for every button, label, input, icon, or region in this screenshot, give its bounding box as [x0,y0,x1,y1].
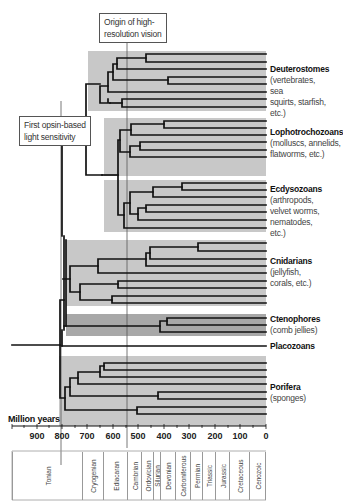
clade-desc: velvet worms, [270,206,330,217]
clade-label-deuterostomes: Deuterostomes (vertebrates, sea squirts,… [270,64,330,119]
clade-desc: (molluscs, annelids, [270,138,343,149]
period-label: Devonian [165,462,172,489]
period-ediacaran: Ediacaran [103,452,127,500]
lophotrochozoans-box [104,118,266,176]
tick-900: 900 [29,431,44,441]
period-cenozoic: Cenozoic [249,452,266,500]
clade-name: Lophotrochozoans [270,127,343,138]
tick-700: 700 [79,431,94,441]
callout-opsin: First opsin-based light sensitivity [19,116,91,146]
period-label: Cambrian [131,462,138,490]
tick-300: 300 [181,431,196,441]
clade-desc: (jellyfish, [270,267,312,278]
clade-label-lophotrochozoans: Lophotrochozoans (molluscs, annelids, fl… [270,127,343,160]
period-label: Permian [193,464,200,488]
period-triassic: Triassic [202,452,215,500]
clade-desc: (sponges) [270,393,306,404]
tick-200: 200 [207,431,222,441]
clade-name: Ecdysozoans [270,184,330,195]
tick-0: 0 [263,431,268,441]
clade-desc: (vertebrates, sea [270,75,330,97]
clade-desc: nematodes, etc.) [270,217,330,239]
tick-500: 500 [130,431,145,441]
period-label: Cenozoic [254,462,261,489]
clade-name: Cnidarians [270,256,312,267]
period-label: Cryogenian [90,459,97,492]
clade-desc: corals, etc.) [270,278,312,289]
clade-desc: etc.) [270,108,330,119]
porifera-box [59,356,266,426]
clade-desc: squirts, starfish, [270,97,330,108]
period-cryogenian: Cryogenian [82,452,103,500]
axis-title: Million years [8,414,60,424]
callout-high-res-vision-line2: resolution vision [104,28,162,40]
callout-high-res-vision: Origin of high- resolution vision [99,13,167,43]
period-silurian: Silurian [153,452,160,500]
callout-opsin-line1: First opsin-based [24,119,86,131]
clade-name: Deuterostomes [270,64,330,75]
deuterostomes-box [88,51,266,111]
period-label: Ediacaran [112,461,119,490]
clade-desc: flatworms, etc.) [270,149,343,160]
period-label: Tonian [44,466,51,485]
period-label: Carboniferous [180,456,187,497]
period-devonian: Devonian [160,452,175,500]
period-label: Ordovician [144,460,151,491]
tick-400: 400 [156,431,171,441]
clade-label-porifera: Porifera (sponges) [270,382,306,404]
period-tonian: Tonian [12,452,82,500]
clade-label-ctenophores: Ctenophores (comb jellies) [270,314,320,336]
period-label: Triassic [206,465,213,487]
period-cambrian: Cambrian [127,452,141,500]
clade-name: Placozoans [270,341,315,352]
period-label: Jurassic [219,464,226,488]
period-permian: Permian [190,452,202,500]
period-cretaceous: Cretaceous [229,452,249,500]
period-ordovician: Ordovician [141,452,153,500]
clade-name: Ctenophores [270,314,320,325]
ecdysozoans-box [104,180,266,232]
period-carboniferous: Carboniferous [175,452,190,500]
callout-opsin-line2: light sensitivity [24,131,86,143]
period-label: Cretaceous [236,459,243,492]
clade-desc: (comb jellies) [270,325,320,336]
clade-name: Porifera [270,382,306,393]
callout-high-res-vision-line1: Origin of high- [104,16,162,28]
tick-800: 800 [54,431,69,441]
clade-desc: (arthropods, [270,195,330,206]
tick-100: 100 [232,431,247,441]
clade-label-placozoans: Placozoans [270,341,315,352]
clade-label-cnidarians: Cnidarians (jellyfish, corals, etc.) [270,256,312,289]
clade-label-ecdysozoans: Ecdysozoans (arthropods, velvet worms, n… [270,184,330,239]
tick-600: 600 [105,431,120,441]
period-jurassic: Jurassic [215,452,229,500]
